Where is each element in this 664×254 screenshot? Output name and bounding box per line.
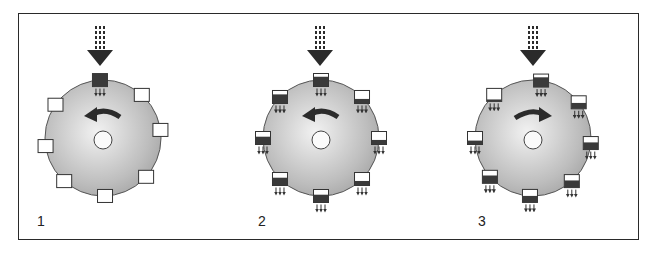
container <box>482 170 497 191</box>
panel-3 <box>468 26 599 210</box>
container <box>522 189 537 210</box>
container <box>272 173 287 194</box>
feed-arrow-icon <box>307 26 333 66</box>
feed-arrow-icon <box>520 26 546 66</box>
container <box>48 98 63 111</box>
panel-number-label: 3 <box>478 213 486 229</box>
container <box>355 173 370 194</box>
container <box>57 175 72 188</box>
panel-1 <box>38 26 168 202</box>
panel-2 <box>256 26 387 211</box>
container <box>139 170 154 183</box>
container <box>314 190 329 211</box>
container <box>98 189 113 202</box>
disk-diagram <box>0 0 664 254</box>
feed-arrow-icon <box>87 26 113 66</box>
disk-hub <box>312 131 330 149</box>
container <box>564 175 579 196</box>
panel-number-label: 2 <box>258 213 266 229</box>
container <box>134 88 149 101</box>
container <box>38 140 53 153</box>
panel-number-label: 1 <box>37 213 45 229</box>
disk-hub <box>524 131 542 149</box>
disk-hub <box>94 131 112 149</box>
container <box>153 123 168 136</box>
